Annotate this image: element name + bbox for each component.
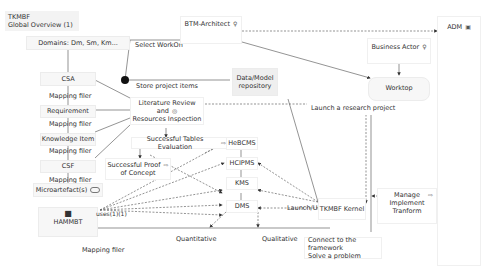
tables-eval-label: Successful Tables Evaluation [132,135,218,151]
title-line-2: Global Overview (1) [8,21,76,29]
lit-review-label-2: Resources Inspection [131,115,203,123]
hcipms-node[interactable]: HCIPMS [226,157,258,170]
requirement-node[interactable]: Requirement [40,105,96,118]
launch-research-label: Launch a research project [307,103,399,115]
data-model-repository-node[interactable]: Data/Model repository [232,68,278,96]
manage-label-1: Manage [389,191,424,199]
component-icon: ▣ [465,23,471,31]
csf-label: CSF [62,162,74,170]
store-project-items-label: Store project items [136,83,198,91]
worktop-node[interactable]: Worktop [368,77,430,101]
literature-review-node[interactable]: Literature Review and◎ Resources Inspect… [130,97,204,125]
lit-review-label-1: Literature Review and [138,99,195,115]
service-icon [90,187,100,193]
process-icon: ⇨ [164,161,169,168]
btm-architect-label: BTM-Architect [185,20,230,28]
connect-label-1: Connect to the framework [308,236,381,252]
csa-node[interactable]: CSA [40,72,96,86]
uses-label: uses(1)(1) [96,210,127,217]
proof-label-1: Successful Proof [107,161,160,169]
actor-icon: ♀ [422,43,426,51]
artifact-icon: ■ [54,210,83,218]
worktop-label: Worktop [385,84,412,92]
business-actor-label: Business Actor [371,43,419,51]
actor-icon: ♀ [233,20,237,28]
hebcms-node[interactable]: HeBCMS [226,137,258,150]
tkmbf-kernel-label: TKMBF Kernel [320,205,365,213]
title-line-1: TKMBF [8,13,76,21]
microartefacts-node[interactable]: Microartefact(s) [33,183,103,197]
csf-node[interactable]: CSF [40,160,96,173]
hammbt-label: HAMMBT [54,218,83,226]
select-workon-label: Select WorkOn [135,42,183,50]
microartefacts-label: Microartefact(s) [36,186,88,194]
requirement-label: Requirement [47,107,89,115]
data-model-label-2: repository [236,82,273,90]
hebcms-label: HeBCMS [228,139,256,147]
hcipms-label: HCIPMS [230,159,255,167]
mapping-filer-label-2: Mapping filer [49,121,92,129]
mapping-filer-label-3: Mapping filer [49,148,92,156]
qualitative-label: Qualitative [262,236,298,244]
domains-label: Domains: Dm, Sm, Km... [38,39,118,47]
knowledge-item-label: Knowledge Item [42,135,95,143]
adm-label: ADM [447,23,462,31]
mapping-filer-label-1: Mapping filer [49,93,92,101]
dms-node[interactable]: DMS [226,200,258,213]
tables-evaluation-node[interactable]: Successful Tables Evaluation ⇨ [131,137,227,149]
kms-label: KMS [235,179,249,187]
hammbt-node[interactable]: ■ HAMMBT [38,207,98,237]
connect-label-2: Solve a problem [308,252,381,260]
tkmbf-kernel-node[interactable]: TKMBF Kernel [318,198,366,220]
proof-of-concept-node[interactable]: Successful Proof⇨ of Concept [105,158,171,180]
adm-node[interactable]: ADM ▣ [437,16,481,266]
goal-icon: ◎ [172,107,177,114]
process-icon: ⇨ [428,191,433,199]
manage-label-3: Tranform [389,207,424,215]
btm-architect-node[interactable]: BTM-Architect ♀ [180,16,242,44]
dms-label: DMS [235,202,250,210]
mapping-filer-label-5: Mapping filer [82,247,125,255]
kms-node[interactable]: KMS [226,177,258,190]
manage-node[interactable]: Manage Implement Tranform ⇨ [377,188,437,224]
business-actor-node[interactable]: Business Actor ♀ [367,38,431,64]
connect-note: Connect to the framework Solve a problem [304,237,382,259]
diagram-title: TKMBF Global Overview (1) [5,11,79,31]
data-model-label-1: Data/Model [236,74,273,82]
quantitative-label: Quantitative [176,236,216,244]
csa-label: CSA [61,75,74,83]
domains-node[interactable]: Domains: Dm, Sm, Km... [26,36,130,50]
manage-label-2: Implement [389,199,424,207]
proof-label-2: of Concept [107,169,168,177]
knowledge-item-node[interactable]: Knowledge Item [40,133,96,146]
junction-dot [121,76,129,84]
